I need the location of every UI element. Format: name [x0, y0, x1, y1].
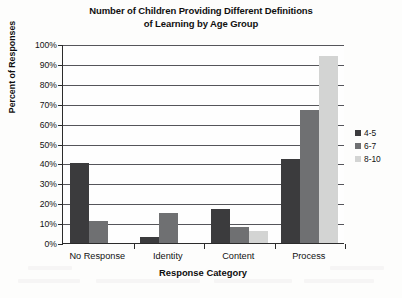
chart-title: Number of Children Providing Different D… — [40, 5, 362, 30]
bar — [281, 159, 300, 243]
bar — [319, 56, 338, 243]
x-axis-tick-label: Identity — [153, 251, 183, 261]
legend-label: 4-5 — [364, 128, 376, 138]
bar — [70, 163, 89, 243]
x-axis-tick — [204, 244, 205, 249]
y-axis-tick-label: 70% — [16, 100, 57, 110]
chart-title-line-2: of Learning by Age Group — [40, 18, 362, 31]
bar — [159, 213, 178, 243]
x-axis-tick — [345, 244, 346, 249]
legend-item: 4-5 — [355, 126, 381, 139]
y-axis-tick-label: 60% — [16, 120, 57, 130]
x-axis-title: Response Category — [62, 267, 344, 278]
chart-legend: 4-56-78-10 — [355, 126, 381, 165]
y-axis-tick — [58, 224, 63, 225]
bar — [249, 231, 268, 243]
y-axis-tick — [58, 125, 63, 126]
scan-artifact — [304, 279, 374, 283]
chart-figure: Number of Children Providing Different D… — [0, 0, 402, 298]
gridline — [63, 105, 344, 106]
y-axis-tick — [58, 204, 63, 205]
y-axis-tick — [58, 65, 63, 66]
legend-swatch-icon — [355, 130, 361, 136]
y-axis-tick-label: 100% — [16, 40, 57, 50]
bar — [211, 209, 230, 243]
y-axis-tick-label: 30% — [16, 179, 57, 189]
scan-artifact — [96, 279, 200, 283]
y-axis-tick-label: 0% — [16, 239, 57, 249]
y-axis-tick-label: 50% — [16, 140, 57, 150]
legend-label: 6-7 — [364, 141, 376, 151]
gridline — [63, 65, 344, 66]
y-axis-tick — [58, 244, 63, 245]
legend-item: 6-7 — [355, 139, 381, 152]
y-axis-tick — [58, 105, 63, 106]
bar — [140, 237, 159, 243]
y-axis-tick-label: 40% — [16, 159, 57, 169]
legend-swatch-icon — [355, 156, 361, 162]
plot-area — [62, 45, 344, 244]
chart-title-line-1: Number of Children Providing Different D… — [40, 5, 362, 18]
y-axis-tick — [58, 164, 63, 165]
bar — [300, 110, 319, 243]
bar — [230, 227, 249, 243]
y-axis-tick-label: 10% — [16, 219, 57, 229]
x-axis-tick-label: No Response — [69, 251, 125, 261]
y-axis-tick-label: 90% — [16, 60, 57, 70]
y-axis-tick — [58, 184, 63, 185]
y-axis-tick-label: 80% — [16, 80, 57, 90]
y-axis-tick — [58, 145, 63, 146]
x-axis-tick — [275, 244, 276, 249]
scan-artifact — [28, 266, 72, 270]
legend-item: 8-10 — [355, 152, 381, 165]
legend-label: 8-10 — [364, 154, 381, 164]
x-axis-tick-labels: No ResponseIdentityContentProcess — [62, 251, 344, 265]
gridline — [63, 85, 344, 86]
x-axis-tick-label: Process — [292, 251, 325, 261]
gridline — [63, 45, 344, 46]
legend-swatch-icon — [355, 143, 361, 149]
x-axis-tick-label: Content — [222, 251, 254, 261]
scan-artifact — [330, 266, 384, 270]
x-axis-tick — [134, 244, 135, 249]
y-axis-tick — [58, 85, 63, 86]
scan-artifact — [214, 279, 292, 283]
y-axis-tick — [58, 45, 63, 46]
scan-artifact — [18, 279, 80, 283]
bar — [89, 221, 108, 243]
y-axis-tick-label: 20% — [16, 199, 57, 209]
